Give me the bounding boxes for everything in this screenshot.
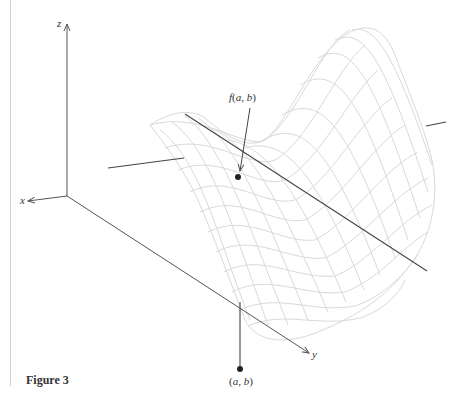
x-axis-label: x (20, 194, 25, 206)
base-point-dot (237, 366, 243, 372)
x-axis (28, 196, 67, 201)
z-axis-label: z (57, 17, 61, 29)
label-pointer-arrow (240, 108, 250, 171)
figure-caption: Figure 3 (26, 373, 69, 388)
axes (28, 24, 309, 353)
figure-svg (0, 0, 465, 401)
tangent-line-y (185, 114, 427, 271)
point-label: f(a, b) (229, 91, 256, 103)
y-axis (67, 196, 309, 353)
figure-frame: z x y f(a, b) (a, b) f(a, b) (a, b) Figu… (0, 0, 465, 401)
y-axis-label: y (312, 348, 317, 360)
tangent-line-x-right (426, 122, 446, 126)
tangent-line-x-left (108, 158, 184, 168)
tangent-lines (108, 114, 446, 368)
surface-point-dot (235, 174, 241, 180)
base-point-label: (a, b) (229, 375, 253, 387)
